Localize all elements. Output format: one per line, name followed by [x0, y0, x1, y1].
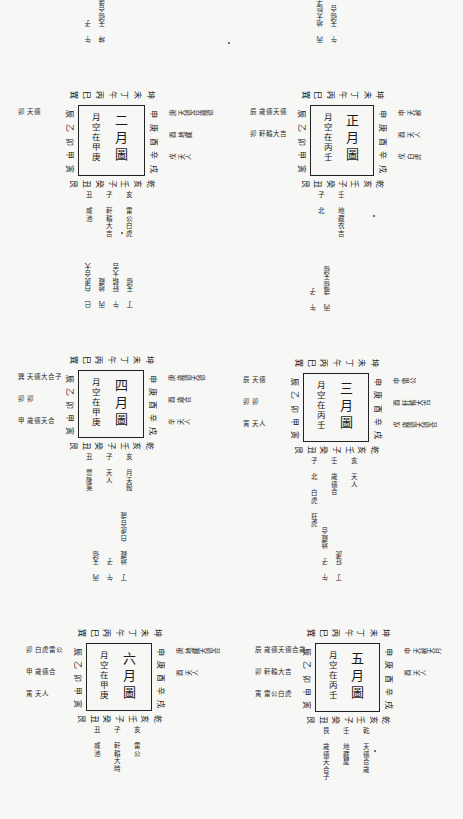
annotation-text: 亥 月天殺: [124, 453, 131, 492]
direction-glyph: 巳: [306, 358, 315, 367]
direction-glyph: 酉: [147, 400, 156, 409]
direction-glyph: 乾: [144, 441, 153, 450]
direction-glyph: 卯: [301, 674, 310, 683]
annotation-text: 午 天德合: [332, 5, 339, 44]
direction-glyph: 乙: [72, 660, 81, 669]
direction-glyph: 辛: [372, 417, 381, 426]
month-box: 四月圖月空在甲庚: [78, 370, 144, 438]
direction-glyph: 丁: [127, 628, 136, 637]
annotation-text: 丁 狂虎: [337, 550, 344, 581]
direction-glyph: 午: [107, 90, 116, 99]
annotation-text: 寅 天人: [243, 421, 266, 428]
direction-glyph: 乙: [64, 387, 73, 396]
month-box: 五月圖月空在丙壬: [315, 643, 380, 712]
annotation-text: 亥 天人: [349, 457, 356, 488]
direction-glyph: 未: [131, 355, 140, 364]
direction-glyph: 卯: [64, 137, 73, 146]
annotation-text: 寅 天人: [26, 691, 49, 698]
month-box: 正月圖月空在丙壬: [310, 105, 374, 176]
direction-glyph: 乙: [301, 660, 310, 669]
direction-glyph: 寅: [301, 700, 310, 709]
direction-glyph: 子: [106, 441, 115, 450]
direction-glyph: 壬: [344, 445, 353, 454]
direction-glyph: 辰: [296, 109, 305, 118]
month-box: 三月圖月空在丙壬: [303, 373, 369, 442]
direction-glyph: 艮: [76, 714, 85, 723]
direction-glyph: 午: [114, 628, 123, 637]
annotation-text: 甲 歲德天合: [18, 418, 55, 425]
annotation-text: 壬 歲德合: [329, 457, 336, 496]
direction-glyph: 甲: [64, 150, 73, 159]
direction-glyph: 乾: [374, 179, 383, 188]
annotation-text: 卯 卯: [18, 396, 34, 403]
direction-glyph: 庚: [147, 387, 156, 396]
direction-glyph: 癸: [94, 179, 103, 188]
direction-glyph: 未: [132, 90, 141, 99]
annotation-text: 卯 天德: [18, 109, 41, 116]
direction-glyph: 卯: [289, 404, 298, 413]
direction-glyph: 癸: [330, 715, 339, 724]
direction-glyph: 癸: [318, 445, 327, 454]
direction-glyph: 丁: [119, 355, 128, 364]
direction-glyph: 艮: [305, 715, 314, 724]
direction-glyph: 丁: [349, 90, 358, 99]
direction-glyph: 亥: [139, 714, 148, 723]
direction-glyph: 午: [337, 90, 346, 99]
direction-glyph: 辛: [148, 150, 157, 159]
direction-glyph: 庚: [383, 660, 392, 669]
direction-glyph: 酉: [148, 137, 157, 146]
direction-glyph: 艮: [68, 179, 77, 188]
month-title: 五月圖: [351, 652, 364, 703]
direction-glyph: 庚: [372, 390, 381, 399]
direction-glyph: 丑: [312, 179, 321, 188]
direction-glyph: 申: [372, 377, 381, 386]
direction-glyph: 申: [383, 647, 392, 656]
direction-glyph: 壬: [349, 179, 358, 188]
direction-glyph: 丁: [119, 90, 128, 99]
direction-glyph: 卯: [64, 400, 73, 409]
direction-glyph: 巽: [305, 628, 314, 637]
annotation-text: 申 天赦天月: [404, 649, 441, 656]
direction-glyph: 坤: [152, 628, 161, 637]
scan-speck: [121, 232, 123, 234]
annotation-text: 庚 歲德天德: [168, 376, 205, 383]
annotation-text: 子 北 白虎 狂虎: [309, 457, 316, 528]
direction-glyph: 戌: [147, 426, 156, 435]
direction-glyph: 寅: [72, 699, 81, 708]
direction-glyph: 甲: [64, 413, 73, 422]
month-title: 三月圖: [339, 382, 352, 433]
annotation-text: 丁 天德: [128, 277, 135, 308]
direction-glyph: 亥: [131, 441, 140, 450]
direction-glyph: 巳: [312, 90, 321, 99]
month-empty-note: 月空在甲庚: [99, 651, 108, 701]
direction-glyph: 寅: [64, 164, 73, 173]
month-empty-note: 月空在甲庚: [91, 113, 100, 163]
direction-glyph: 丑: [81, 441, 90, 450]
direction-glyph: 卯: [72, 673, 81, 682]
direction-glyph: 甲: [301, 687, 310, 696]
direction-glyph: 辰: [289, 377, 298, 386]
annotation-text: 戌 天人: [169, 155, 192, 162]
annotation-text: 酉 地藏: [169, 133, 192, 140]
direction-glyph: 巳: [318, 628, 327, 637]
direction-glyph: 癸: [101, 714, 110, 723]
annotation-text: 艮 歲德天合子: [321, 727, 328, 781]
annotation-text: 庚 地藏天德合: [176, 649, 220, 656]
direction-glyph: 亥: [362, 179, 371, 188]
direction-glyph: 乾: [152, 714, 161, 723]
month-box: 六月圖月空在甲庚: [86, 643, 152, 711]
direction-glyph: 庚: [148, 123, 157, 132]
direction-glyph: 辛: [377, 150, 386, 159]
direction-glyph: 艮: [293, 445, 302, 454]
annotation-text: 壬 地藏衣吉: [336, 191, 343, 237]
direction-glyph: 壬: [119, 179, 128, 188]
month-empty-note: 月空在丙壬: [316, 381, 325, 431]
direction-glyph: 乙: [64, 123, 73, 132]
annotation-text: 坤 天德合歲德: [100, 0, 107, 43]
direction-glyph: 辛: [383, 687, 392, 696]
direction-glyph: 甲: [296, 150, 305, 159]
annotation-text: 戌 白虎: [398, 155, 421, 162]
direction-glyph: 巽: [76, 628, 85, 637]
annotation-text: 辛 天人: [168, 420, 191, 427]
annotation-text: 午 子: [311, 288, 318, 312]
